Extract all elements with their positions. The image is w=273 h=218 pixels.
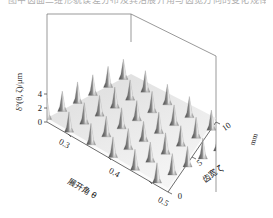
z-axis: 0 2 4 δ°(θ, ζ)/μm: [15, 73, 47, 127]
z-tick-0: 0: [38, 117, 42, 127]
surface-peak-highlight: [218, 131, 221, 151]
x-axis-label: 展开角 θ: [66, 176, 98, 200]
surface-peak: [213, 131, 222, 151]
y-tick-10: 10: [220, 120, 233, 133]
surface-plot-figure: 0 2 4 δ°(θ, ζ)/μm 0.3 0.4 0.5 展开角 θ 0 5 …: [0, 0, 273, 218]
surface-peak-highlight: [233, 122, 236, 143]
surface-peak: [119, 59, 128, 79]
z-tick-4: 4: [38, 89, 43, 99]
surface-peak: [58, 91, 67, 111]
x-tick-0p5: 0.5: [156, 194, 170, 208]
surface-mesh: [42, 59, 238, 188]
y-axis-unit: mm: [248, 132, 260, 146]
x-tick-0p4: 0.4: [107, 165, 122, 179]
surface-peak: [88, 75, 97, 96]
y-tick-0: 0: [178, 191, 182, 201]
y-axis-label: 齿宽 ζ: [200, 163, 225, 185]
surface-peak: [103, 66, 112, 87]
z-axis-label: δ°(θ, ζ)/μm: [15, 73, 24, 111]
surface-peak: [42, 98, 51, 119]
z-tick-2: 2: [38, 103, 42, 113]
x-tick-0p3: 0.3: [57, 136, 71, 150]
surface-peak: [73, 82, 82, 103]
